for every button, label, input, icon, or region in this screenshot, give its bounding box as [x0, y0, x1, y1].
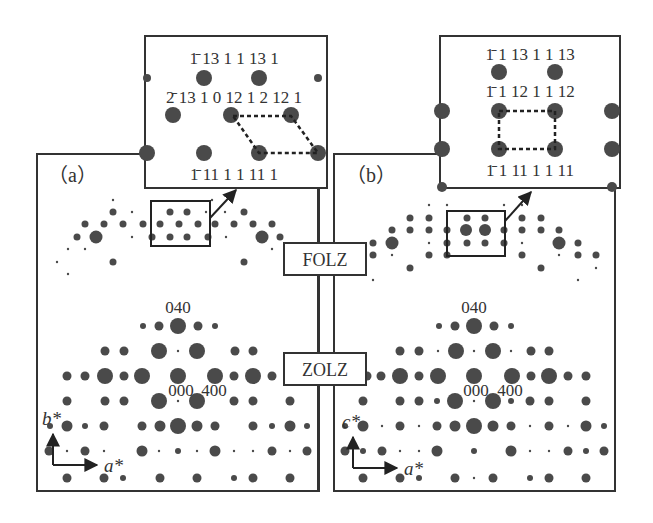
- inset-a-row2: 2̄ 13 1 0 12 1 2 12 1: [166, 88, 302, 107]
- axis-label-b-star: b*: [42, 408, 62, 429]
- inset-a-row3: 1̄ 11 1 1 11 1: [190, 165, 278, 184]
- zolz-label-400-a: 400: [201, 381, 227, 400]
- inset-b-row2: 1̄ 1 12 1 1 12: [485, 82, 574, 101]
- diffraction-figure: （a） 040: [0, 0, 653, 523]
- folz-spots-b: [370, 204, 600, 281]
- inset-a-row1: 1̄ 13 1 1 13 1: [189, 49, 278, 68]
- zolz-label-040-a: 040: [165, 298, 191, 317]
- zolz-label-400-b: 400: [497, 381, 523, 400]
- zolz-label-000-b: 000: [463, 381, 489, 400]
- panel-a: （a） 040: [37, 154, 319, 491]
- zolz-label-000-a: 000: [168, 381, 194, 400]
- axes-b: c* a*: [342, 411, 424, 479]
- axes-a: b* a*: [42, 408, 124, 476]
- inset-a: 1̄ 13 1 1 13 1 2̄ 13 1 0 12 1 2 12 1 1̄ …: [139, 36, 327, 188]
- inset-region-b: [447, 211, 505, 256]
- inset-b: 1̄ 1 13 1 1 13 1̄ 1 12 1 1 12 1̄ 1 11 1 …: [434, 36, 620, 192]
- panel-b: （b） 040 000 400 c* a*: [334, 154, 615, 491]
- panel-a-label: （a）: [48, 164, 97, 186]
- axis-label-c-star: c*: [342, 411, 360, 432]
- zolz-spots-b: [341, 318, 609, 483]
- axis-label-a-star-b: a*: [404, 458, 424, 479]
- axis-label-a-star-a: a*: [104, 455, 124, 476]
- folz-spots-a: [56, 199, 284, 275]
- panel-b-label: （b）: [346, 164, 396, 186]
- zolz-label-040-b: 040: [461, 298, 487, 317]
- zolz-label: ZOLZ: [302, 360, 348, 380]
- zolz-spots-a: [45, 318, 312, 483]
- inset-b-row1: 1̄ 1 13 1 1 13: [485, 45, 574, 64]
- folz-label: FOLZ: [303, 250, 348, 270]
- inset-b-row3: 1̄ 1 11 1 1 11: [486, 161, 574, 180]
